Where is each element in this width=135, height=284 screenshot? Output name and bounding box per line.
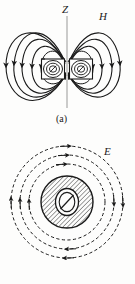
coil-cross-section-right <box>70 59 93 79</box>
figure-b-drawing <box>0 140 135 284</box>
figure-a-magnetic-field: Z H (a) <box>0 0 135 140</box>
coil-cross-section-left <box>42 59 65 79</box>
z-axis-label: Z <box>62 4 68 15</box>
h-field-label: H <box>99 11 107 22</box>
figure-a-drawing <box>0 0 135 140</box>
figure-a-caption: (a) <box>56 114 67 124</box>
e-field-label: E <box>104 146 111 157</box>
flux-core-disk <box>41 176 93 228</box>
figure-b-electric-field: E (b) <box>0 140 135 284</box>
